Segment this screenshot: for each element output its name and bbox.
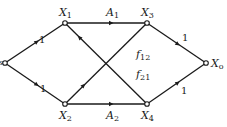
node-x3 — [145, 21, 150, 26]
node-x4 — [145, 102, 150, 107]
arrow-icon — [109, 102, 114, 106]
label-x3: X3 — [140, 6, 154, 20]
gain-x3-xo: 1 — [182, 32, 188, 43]
label-xs-overlay: Xs — [0, 54, 3, 65]
gain-f12: f12 — [135, 48, 150, 62]
label-x4: X4 — [140, 109, 154, 123]
label-x2: X2 — [58, 109, 72, 123]
node-xs — [3, 61, 8, 66]
gain-xs-x2: 1 — [40, 83, 46, 94]
label-xo: Xo — [210, 57, 224, 71]
node-xo — [204, 61, 209, 66]
node-x2 — [63, 102, 68, 107]
gain-a1: A1 — [105, 6, 119, 20]
label-xs-sub: s — [0, 58, 3, 67]
gain-x4-xo: 1 — [181, 85, 187, 96]
label-x1: X1 — [58, 6, 72, 20]
arrow-icon — [109, 21, 114, 25]
gain-a2: A2 — [105, 109, 119, 123]
gain-f21: f21 — [135, 68, 150, 82]
node-x1 — [63, 21, 68, 26]
signal-flow-graph: X1 X3 Xo X2 X4 A1 A2 f12 f21 1 1 1 1 — [0, 0, 227, 127]
gain-xs-x1: 1 — [39, 34, 45, 45]
